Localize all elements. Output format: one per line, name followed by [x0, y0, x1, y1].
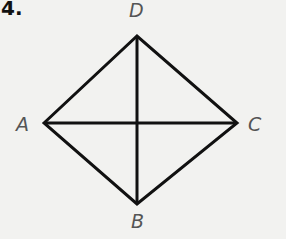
rhombus-diagram [0, 0, 286, 239]
label-D: D [129, 0, 144, 21]
quadrilateral-ADCB [44, 36, 237, 204]
label-A: A [16, 113, 29, 135]
label-C: C [248, 113, 261, 135]
label-B: B [131, 210, 144, 232]
